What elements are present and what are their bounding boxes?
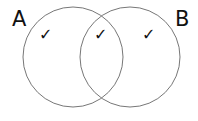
intersection-check-icon: ✓ <box>94 27 107 43</box>
b-only-check-icon: ✓ <box>142 27 155 43</box>
set-b-circle <box>80 7 180 107</box>
set-b-label: B <box>175 9 189 30</box>
set-a-label: A <box>12 9 26 30</box>
set-a-circle <box>23 7 123 107</box>
a-only-check-icon: ✓ <box>39 27 52 43</box>
venn-diagram <box>0 0 198 121</box>
